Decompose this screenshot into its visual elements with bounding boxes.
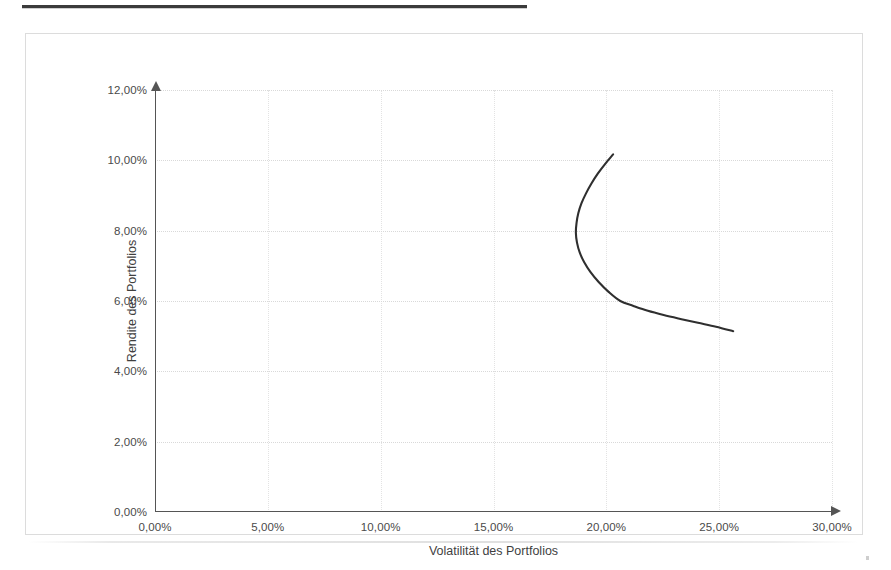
x-tick-label: 15,00%: [474, 521, 514, 533]
y-tick-label: 8,00%: [114, 225, 147, 237]
scan-artifact-speck: [866, 556, 869, 560]
y-tick-label: 2,00%: [114, 436, 147, 448]
y-tick-label: 4,00%: [114, 365, 147, 377]
y-tick-label: 0,00%: [114, 506, 147, 518]
page-header-rule: [22, 5, 527, 8]
x-axis-line: [155, 511, 832, 512]
x-axis-arrow-icon: [831, 506, 841, 516]
x-tick-label: 10,00%: [361, 521, 401, 533]
x-tick-label: 5,00%: [251, 521, 284, 533]
y-axis-arrow-icon: [151, 81, 161, 91]
plot-area: 0,00%2,00%4,00%6,00%8,00%10,00%12,00% 0,…: [155, 90, 832, 512]
scan-artifact-line: [28, 541, 858, 543]
gridline-vertical: [832, 90, 834, 512]
x-tick-label: 20,00%: [587, 521, 627, 533]
y-tick-label: 12,00%: [107, 84, 147, 96]
x-tick-label: 30,00%: [812, 521, 852, 533]
efficient-frontier-curve: [155, 90, 832, 512]
y-tick-label: 10,00%: [107, 154, 147, 166]
x-tick-label: 0,00%: [138, 521, 171, 533]
chart-frame: 0,00%2,00%4,00%6,00%8,00%10,00%12,00% 0,…: [25, 33, 863, 535]
y-axis-line: [155, 90, 156, 512]
x-axis-title: Volatilität des Portfolios: [155, 544, 832, 558]
y-axis-title: Rendite des Portfolios: [125, 240, 139, 362]
x-tick-label: 25,00%: [699, 521, 739, 533]
